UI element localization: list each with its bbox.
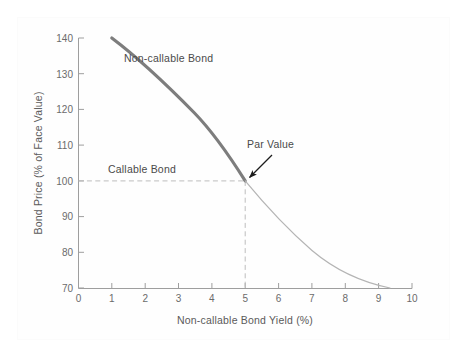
x-axis-title: Non-callable Bond Yield (%) [177,314,313,326]
reference-lines [79,181,246,288]
non-callable-bond-label: Non-callable Bond [124,52,213,64]
par-value-arrow [250,155,273,178]
x-tick-label-8: 8 [343,293,349,304]
x-tick-label-3: 3 [176,293,182,304]
y-tick-label-90: 90 [62,211,74,222]
y-axis-title: Bond Price (% of Face Value) [32,91,44,234]
annotations: Non-callable Bond Callable Bond Par Valu… [108,52,294,178]
x-tick-label-1: 1 [109,293,115,304]
x-tick-label-0: 0 [76,293,82,304]
x-tick-label-2: 2 [142,293,148,304]
callable-bond-curve [245,181,390,288]
y-axis-tick-labels: 140 130 120 110 100 90 80 70 [56,33,73,294]
x-axis-tick-labels: 0 1 2 3 4 5 6 7 8 9 10 [76,293,418,304]
callable-bond-label: Callable Bond [108,163,176,175]
y-tick-label-70: 70 [62,283,74,294]
x-tick-label-7: 7 [309,293,315,304]
y-axis-ticks [79,38,85,288]
y-tick-label-140: 140 [56,33,73,44]
x-tick-label-6: 6 [276,293,282,304]
x-tick-label-9: 9 [376,293,382,304]
x-tick-label-10: 10 [406,293,418,304]
y-tick-label-120: 120 [56,104,73,115]
y-tick-label-100: 100 [56,176,73,187]
par-value-label: Par Value [247,138,294,150]
bond-price-yield-chart: 140 130 120 110 100 90 80 70 0 1 2 [0,0,467,357]
y-tick-label-80: 80 [62,247,74,258]
x-tick-label-4: 4 [209,293,215,304]
x-tick-label-5: 5 [242,293,248,304]
y-tick-label-130: 130 [56,69,73,80]
y-tick-label-110: 110 [57,140,73,151]
chart-figure: 140 130 120 110 100 90 80 70 0 1 2 [0,0,467,357]
